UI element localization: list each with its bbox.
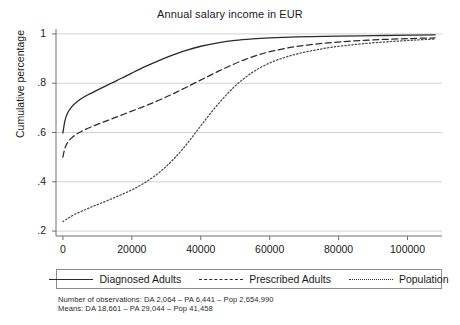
legend-item-prescribed-adults[interactable]: Prescribed Adults <box>190 273 340 285</box>
y-tick-marks <box>52 34 56 231</box>
x-tick-label: 60000 <box>235 243 305 255</box>
legend-key-solid <box>49 279 93 280</box>
x-tick-label: 80000 <box>304 243 374 255</box>
y-tick-label: 1 <box>20 27 46 39</box>
series-line-prescribed-adults <box>63 38 435 157</box>
legend-label: Population <box>399 273 449 285</box>
y-tick-label: .8 <box>20 76 46 88</box>
series-line-population <box>63 39 435 222</box>
series-line-diagnosed-adults <box>63 35 435 133</box>
y-tick-label: .6 <box>20 126 46 138</box>
y-tick-label: .4 <box>20 175 46 187</box>
x-tick-marks <box>63 236 408 240</box>
note-means: Means: DA 18,661 – PA 29,044 – Pop 41,45… <box>58 304 213 313</box>
legend-key-dashed <box>199 279 243 280</box>
chart-figure: Annual salary income in EUR Cumulative p… <box>0 0 460 325</box>
x-tick-label: 40000 <box>166 243 236 255</box>
note-observations: Number of observations: DA 2,064 – PA 6,… <box>58 295 274 304</box>
legend-label: Prescribed Adults <box>249 273 331 285</box>
chart-legend[interactable]: Diagnosed AdultsPrescribed AdultsPopulat… <box>56 269 442 289</box>
series-lines <box>63 35 435 222</box>
legend-row: Diagnosed AdultsPrescribed AdultsPopulat… <box>57 270 441 288</box>
gridlines <box>56 34 442 231</box>
x-tick-label: 0 <box>28 243 98 255</box>
x-tick-label: 100000 <box>373 243 443 255</box>
x-tick-label: 20000 <box>97 243 167 255</box>
legend-label: Diagnosed Adults <box>99 273 181 285</box>
y-tick-label: .2 <box>20 224 46 236</box>
legend-item-population[interactable]: Population <box>340 273 458 285</box>
legend-item-diagnosed-adults[interactable]: Diagnosed Adults <box>40 273 190 285</box>
legend-key-dotted <box>349 279 393 280</box>
